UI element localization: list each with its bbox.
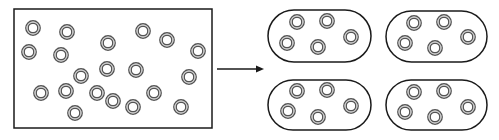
- particle-icon: [398, 105, 412, 119]
- particle-icon: [54, 48, 68, 62]
- particle-icon: [147, 86, 161, 100]
- particle-icon: [398, 36, 412, 50]
- particle-icon: [182, 70, 196, 84]
- particle-icon: [191, 44, 205, 58]
- particle-icon: [437, 84, 451, 98]
- arrow-head-icon: [256, 66, 264, 73]
- capsule-group-3: [268, 80, 371, 130]
- particle-icon: [311, 110, 325, 124]
- particle-icon: [320, 14, 334, 28]
- particle-icon: [344, 99, 358, 113]
- particle-icon: [129, 63, 143, 77]
- particle-icon: [280, 36, 294, 50]
- particle-icon: [100, 62, 114, 76]
- source-container: [14, 9, 212, 128]
- particle-icon: [320, 83, 334, 97]
- capsule-group-1: [268, 10, 371, 62]
- particle-icon: [290, 15, 304, 29]
- particle-icon: [461, 100, 475, 114]
- particle-icon: [60, 25, 74, 39]
- grouped-capsules: [268, 10, 487, 130]
- particle-icon: [407, 85, 421, 99]
- particle-icon: [34, 86, 48, 100]
- capsule-group-4: [386, 80, 487, 130]
- particle-icon: [160, 33, 174, 47]
- particle-icon: [136, 24, 150, 38]
- particle-icon: [311, 40, 325, 54]
- particle-icon: [59, 84, 73, 98]
- capsule-group-2: [386, 11, 487, 62]
- particle-icon: [281, 104, 295, 118]
- particle-icon: [461, 30, 475, 44]
- particle-icon: [428, 41, 442, 55]
- particle-icon: [68, 106, 82, 120]
- particle-icon: [407, 16, 421, 30]
- particle-icon: [26, 21, 40, 35]
- particle-icon: [22, 45, 36, 59]
- particle-icon: [428, 110, 442, 124]
- particle-icon: [106, 94, 120, 108]
- particle-icon: [90, 86, 104, 100]
- arrow: [217, 66, 264, 73]
- particle-icon: [344, 30, 358, 44]
- diagram-canvas: [0, 0, 499, 140]
- particle-icon: [126, 100, 140, 114]
- particle-icon: [437, 15, 451, 29]
- particle-icon: [74, 69, 88, 83]
- particle-icon: [174, 100, 188, 114]
- particle-icon: [101, 36, 115, 50]
- particle-icon: [290, 84, 304, 98]
